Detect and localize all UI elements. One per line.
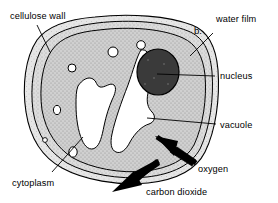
diagram-canvas: cellulose wall b. water film nucleus vac… bbox=[0, 0, 278, 203]
vesicle bbox=[53, 105, 60, 114]
vesicle bbox=[137, 41, 146, 50]
label-cytoplasm: cytoplasm bbox=[12, 178, 55, 188]
vesicle bbox=[108, 47, 118, 57]
nucleus-body bbox=[137, 49, 179, 95]
nucleus-shape bbox=[137, 49, 179, 95]
panel-letter: b. bbox=[194, 25, 202, 36]
label-vacuole: vacuole bbox=[220, 120, 252, 130]
label-water-film: water film bbox=[215, 14, 257, 24]
vesicle bbox=[43, 138, 48, 143]
label-cellulose-wall: cellulose wall bbox=[10, 11, 66, 21]
cell-diagram-figure: cellulose wall b. water film nucleus vac… bbox=[0, 0, 278, 203]
label-carbon-dioxide: carbon dioxide bbox=[146, 187, 207, 197]
label-oxygen: oxygen bbox=[198, 164, 228, 174]
vesicle bbox=[68, 64, 76, 72]
label-nucleus: nucleus bbox=[220, 71, 253, 81]
